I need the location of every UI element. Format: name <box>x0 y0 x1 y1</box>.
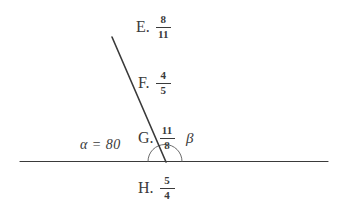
choice-g-fraction: 11 8 <box>160 125 175 151</box>
choice-f: F. 4 5 <box>138 70 171 96</box>
choice-f-letter: F. <box>138 75 150 91</box>
choice-h: H. 5 4 <box>138 175 175 201</box>
choice-e-numerator: 8 <box>160 14 168 26</box>
choice-h-numerator: 5 <box>163 175 171 187</box>
geometry-figure: E. 8 11 F. 4 5 G. 11 8 H. 5 4 α = <box>0 0 344 211</box>
choice-f-numerator: 4 <box>159 70 167 82</box>
choice-e-fraction: 8 11 <box>156 14 171 40</box>
choice-e-denominator: 11 <box>157 29 169 41</box>
choice-h-letter: H. <box>138 180 154 196</box>
choice-g: G. 11 8 <box>138 125 175 151</box>
choice-h-fraction: 5 4 <box>160 175 175 201</box>
choice-f-fraction: 4 5 <box>156 70 171 96</box>
choice-g-denominator: 8 <box>163 140 171 152</box>
choice-e: E. 8 11 <box>136 14 171 40</box>
beta-angle-label: β <box>186 131 193 146</box>
choice-e-letter: E. <box>136 19 150 35</box>
choice-h-denominator: 4 <box>163 190 171 202</box>
choice-g-numerator: 11 <box>161 125 173 137</box>
choice-g-letter: G. <box>138 130 154 146</box>
choice-f-denominator: 5 <box>159 85 167 97</box>
alpha-angle-label: α = 80 <box>80 138 121 152</box>
